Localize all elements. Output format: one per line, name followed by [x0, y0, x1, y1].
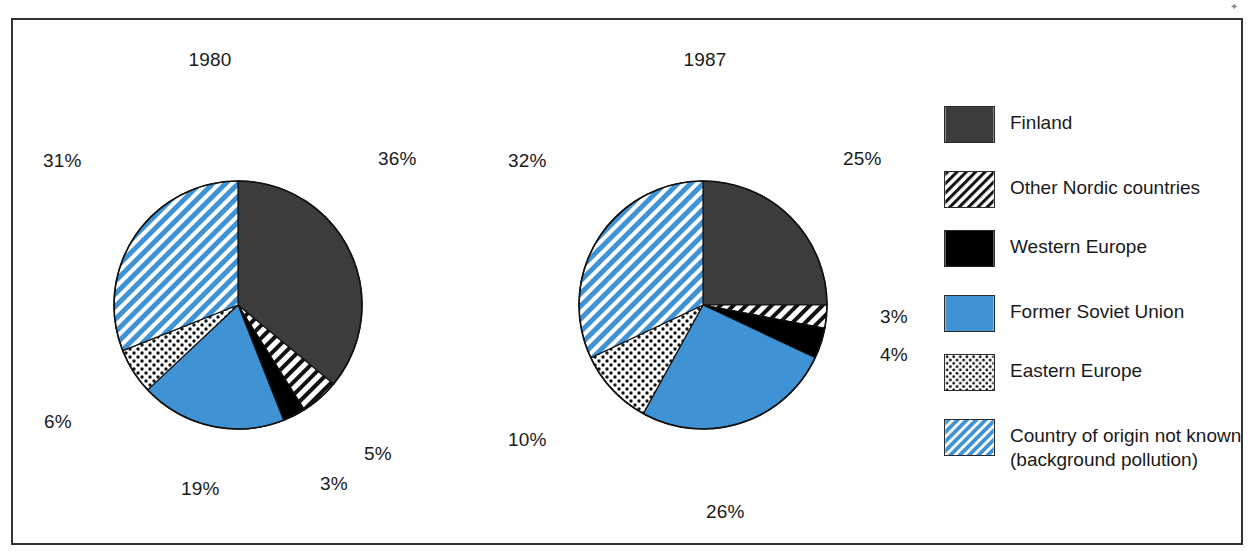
pie-chart-1980 — [112, 179, 364, 431]
label-1980-former-soviet-union: 19% — [181, 478, 220, 500]
label-1987-unknown: 32% — [508, 150, 547, 172]
legend-label-line2: (background pollution) — [1010, 448, 1241, 472]
legend-label-other-nordic: Other Nordic countries — [1010, 176, 1200, 200]
legend-label-finland: Finland — [1010, 111, 1072, 135]
legend-label-line1: Former Soviet Union — [1010, 301, 1184, 322]
label-1980-other-nordic: 5% — [364, 443, 392, 465]
legend-swatch-finland — [944, 106, 995, 143]
legend-swatch-unknown — [944, 419, 995, 456]
label-1987-western-europe: 4% — [880, 344, 908, 366]
pie-title-1987: 1987 — [655, 49, 755, 71]
label-1987-eastern-europe: 10% — [508, 429, 547, 451]
legend-label-line1: Country of origin not known — [1010, 425, 1241, 446]
legend-label-eastern-europe: Eastern Europe — [1010, 359, 1142, 383]
legend-swatch-eastern-europe — [944, 354, 995, 391]
label-1980-western-europe: 3% — [320, 473, 348, 495]
figure-root: ✦ 1980 1987 36%5%3%19%6%31%25%3%4%26%10%… — [0, 0, 1251, 556]
legend-label-unknown: Country of origin not known(background p… — [1010, 424, 1241, 472]
legend-label-western-europe: Western Europe — [1010, 235, 1147, 259]
label-1980-eastern-europe: 6% — [44, 411, 72, 433]
pie-title-1980: 1980 — [160, 49, 260, 71]
label-1987-former-soviet-union: 26% — [706, 501, 745, 523]
pie-chart-1987 — [577, 179, 829, 431]
legend-label-line1: Finland — [1010, 112, 1072, 133]
page-corner-mark: ✦ — [1230, 2, 1239, 11]
legend-swatch-other-nordic — [944, 171, 995, 208]
legend-label-line1: Other Nordic countries — [1010, 177, 1200, 198]
legend-swatch-former-soviet-union — [944, 295, 995, 332]
label-1980-finland: 36% — [378, 148, 417, 170]
legend-label-former-soviet-union: Former Soviet Union — [1010, 300, 1184, 324]
legend-label-line1: Eastern Europe — [1010, 360, 1142, 381]
label-1987-finland: 25% — [843, 148, 882, 170]
label-1987-other-nordic: 3% — [880, 306, 908, 328]
legend-swatch-western-europe — [944, 230, 995, 267]
label-1980-unknown: 31% — [43, 150, 82, 172]
legend-label-line1: Western Europe — [1010, 236, 1147, 257]
pie-slice-1987-finland — [703, 181, 827, 305]
